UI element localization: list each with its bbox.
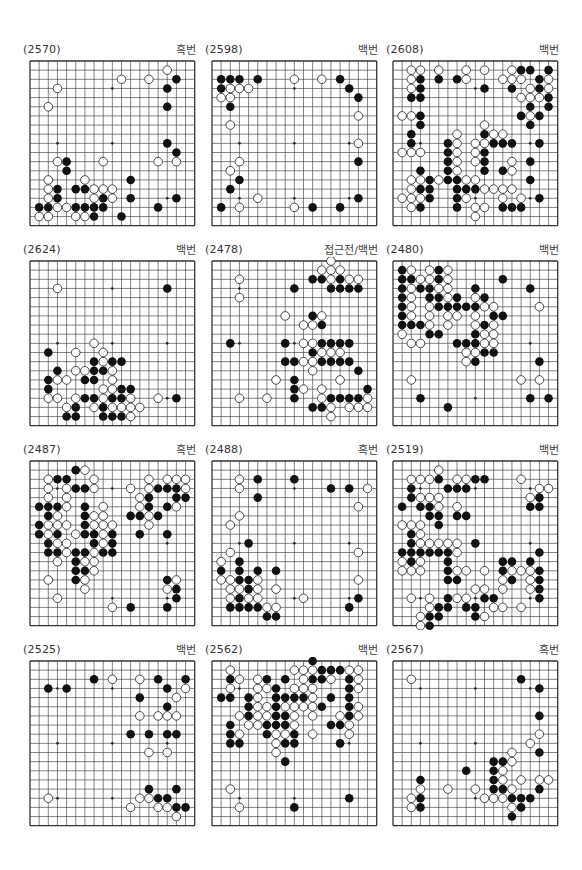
black-stone-icon: [489, 776, 498, 785]
star-point-icon: [293, 142, 296, 145]
white-stone-icon: [398, 557, 407, 566]
white-stone-icon: [480, 794, 489, 803]
black-stone-icon: [35, 530, 44, 539]
black-stone-icon: [163, 576, 172, 585]
white-stone-icon: [44, 576, 53, 585]
black-stone-icon: [535, 594, 544, 603]
black-stone-icon: [172, 730, 181, 739]
white-stone-icon: [407, 312, 416, 321]
white-stone-icon: [108, 194, 117, 203]
star-point-icon: [238, 142, 241, 145]
white-stone-icon: [62, 403, 71, 412]
black-stone-icon: [163, 484, 172, 493]
white-stone-icon: [62, 539, 71, 548]
white-stone-icon: [345, 275, 354, 284]
black-stone-icon: [244, 702, 253, 711]
white-stone-icon: [453, 539, 462, 548]
go-diagram-panel: (2570)흑번: [26, 43, 196, 233]
white-stone-icon: [253, 712, 262, 721]
black-stone-icon: [244, 585, 253, 594]
go-diagram-panel: (2480)백번: [389, 243, 559, 433]
white-stone-icon: [544, 84, 553, 93]
black-stone-icon: [90, 539, 99, 548]
white-stone-icon: [517, 75, 526, 84]
white-stone-icon: [471, 148, 480, 157]
white-stone-icon: [136, 403, 145, 412]
black-stone-icon: [290, 730, 299, 739]
black-stone-icon: [526, 176, 535, 185]
white-stone-icon: [253, 585, 262, 594]
white-stone-icon: [217, 576, 226, 585]
black-stone-icon: [499, 785, 508, 794]
white-stone-icon: [272, 585, 281, 594]
white-stone-icon: [308, 357, 317, 366]
star-point-icon: [529, 542, 532, 545]
black-stone-icon: [480, 130, 489, 139]
white-stone-icon: [416, 539, 425, 548]
white-stone-icon: [336, 348, 345, 357]
white-stone-icon: [354, 548, 363, 557]
white-stone-icon: [308, 702, 317, 711]
white-stone-icon: [508, 185, 517, 194]
white-stone-icon: [163, 748, 172, 757]
black-stone-icon: [336, 339, 345, 348]
black-stone-icon: [181, 675, 190, 684]
white-stone-icon: [281, 312, 290, 321]
black-stone-icon: [416, 203, 425, 212]
black-stone-icon: [172, 594, 181, 603]
white-stone-icon: [53, 376, 62, 385]
black-stone-icon: [407, 493, 416, 502]
white-stone-icon: [71, 394, 80, 403]
star-point-icon: [474, 597, 477, 600]
white-stone-icon: [471, 348, 480, 357]
white-stone-icon: [517, 567, 526, 576]
black-stone-icon: [308, 348, 317, 357]
problem-number: (2488): [205, 443, 243, 456]
white-stone-icon: [480, 612, 489, 621]
black-stone-icon: [318, 403, 327, 412]
white-stone-icon: [407, 521, 416, 530]
black-stone-icon: [471, 475, 480, 484]
black-stone-icon: [336, 275, 345, 284]
white-stone-icon: [508, 567, 517, 576]
black-stone-icon: [535, 785, 544, 794]
black-stone-icon: [126, 603, 135, 612]
white-stone-icon: [136, 493, 145, 502]
white-stone-icon: [480, 66, 489, 75]
black-stone-icon: [35, 203, 44, 212]
black-stone-icon: [453, 512, 462, 521]
white-stone-icon: [154, 803, 163, 812]
black-stone-icon: [425, 548, 434, 557]
black-stone-icon: [480, 167, 489, 176]
black-stone-icon: [336, 75, 345, 84]
black-stone-icon: [145, 785, 154, 794]
white-stone-icon: [117, 75, 126, 84]
white-stone-icon: [434, 66, 443, 75]
white-stone-icon: [53, 521, 62, 530]
black-stone-icon: [263, 721, 272, 730]
white-stone-icon: [354, 702, 363, 711]
white-stone-icon: [327, 257, 336, 265]
black-stone-icon: [53, 530, 62, 539]
black-stone-icon: [290, 376, 299, 385]
black-stone-icon: [99, 548, 108, 557]
white-stone-icon: [99, 530, 108, 539]
white-stone-icon: [53, 157, 62, 166]
black-stone-icon: [398, 293, 407, 302]
black-stone-icon: [327, 721, 336, 730]
star-point-icon: [166, 342, 169, 345]
black-stone-icon: [453, 576, 462, 585]
black-stone-icon: [44, 385, 53, 394]
white-stone-icon: [62, 521, 71, 530]
go-board: [26, 257, 199, 430]
black-stone-icon: [407, 548, 416, 557]
black-stone-icon: [416, 284, 425, 293]
black-stone-icon: [526, 394, 535, 403]
go-board: [208, 257, 381, 430]
black-stone-icon: [398, 502, 407, 511]
white-stone-icon: [308, 684, 317, 693]
white-stone-icon: [499, 794, 508, 803]
white-stone-icon: [345, 666, 354, 675]
black-stone-icon: [217, 75, 226, 84]
white-stone-icon: [235, 84, 244, 93]
